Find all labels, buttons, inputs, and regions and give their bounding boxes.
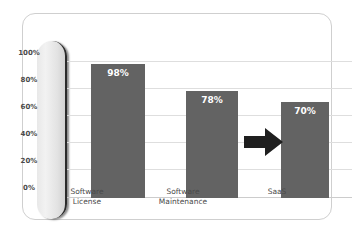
y-tick-100: 100% [14,49,44,57]
category-label-saas: SaaS [238,187,316,197]
plot-area: 98% 78% 70% [67,61,352,198]
bar-saas[interactable]: 70% [281,102,329,198]
y-tick-60: 60% [14,103,44,111]
y-tick-0: 0% [14,184,44,192]
flow-arrow-icon [244,127,284,157]
category-label-line2: Maintenance [142,197,224,207]
category-label-software-license: Software License [48,187,126,207]
y-tick-20: 20% [14,157,44,165]
bar-software-license[interactable]: 98% [91,64,145,198]
category-label-software-maintenance: Software Maintenance [142,187,224,207]
y-tick-40: 40% [14,130,44,138]
bar-software-maintenance[interactable]: 78% [186,91,238,198]
category-label-line1: Software [48,187,126,197]
category-label-line1: SaaS [238,187,316,197]
y-tick-80: 80% [14,76,44,84]
category-label-line2: License [48,197,126,207]
bar-value-label: 70% [281,106,329,116]
bar-value-label: 78% [186,95,238,105]
bar-value-label: 98% [91,68,145,78]
gridline-100 [67,61,352,62]
category-label-line1: Software [142,187,224,197]
